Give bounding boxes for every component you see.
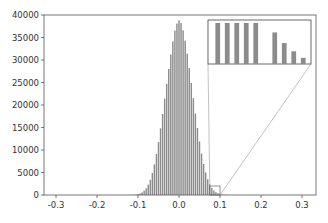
histogram-bar <box>174 31 175 195</box>
histogram-bar <box>182 30 183 195</box>
inset-bar <box>291 51 296 64</box>
histogram-bar <box>180 23 181 195</box>
x-tick-label: 0.3 <box>295 200 309 210</box>
histogram-bar <box>184 41 185 195</box>
inset-bar <box>301 58 306 64</box>
x-tick-label: -0.2 <box>89 200 106 210</box>
y-tick-label: 15000 <box>12 123 39 133</box>
histogram-bar <box>207 179 208 195</box>
inset-bar <box>225 23 230 64</box>
histogram-bar <box>205 173 206 196</box>
histogram-bar <box>166 84 167 195</box>
y-tick-label: 5000 <box>17 168 39 178</box>
x-tick-label: 0.2 <box>254 200 268 210</box>
x-tick-label: 0.0 <box>172 200 186 210</box>
y-tick-label: 20000 <box>12 100 39 110</box>
histogram-bar <box>215 192 216 195</box>
histogram-bar <box>168 69 169 195</box>
inset-bar <box>215 23 220 64</box>
histogram-bar <box>195 114 196 195</box>
histogram-bar <box>156 154 157 195</box>
histogram-bar <box>143 191 144 195</box>
histogram-bar <box>191 83 192 195</box>
histogram-bar <box>162 114 163 195</box>
x-tick-label: 0.1 <box>213 200 227 210</box>
histogram-bar <box>164 99 165 195</box>
y-tick-label: 10000 <box>12 145 39 155</box>
histogram-bar <box>148 185 149 195</box>
histogram-chart: 0500010000150002000025000300003500040000… <box>0 0 328 223</box>
y-tick-label: 40000 <box>12 10 39 20</box>
inset-bar <box>234 23 239 64</box>
x-tick-label: -0.1 <box>130 200 147 210</box>
inset-bar <box>253 23 258 64</box>
y-tick-label: 35000 <box>12 33 39 43</box>
inset-bar <box>282 43 287 64</box>
histogram-bar <box>178 20 179 195</box>
histogram-bar <box>203 164 204 195</box>
y-tick-label: 0 <box>34 190 39 200</box>
histogram-bar <box>189 68 190 195</box>
histogram-bar <box>211 188 212 195</box>
histogram-bar <box>186 54 187 195</box>
y-tick-label: 25000 <box>12 78 39 88</box>
histogram-bar <box>152 173 153 195</box>
histogram-bar <box>199 141 200 195</box>
zoom-inset <box>208 20 311 195</box>
histogram-bar <box>176 24 177 195</box>
histogram-bar <box>150 180 151 195</box>
histogram-bar <box>201 154 202 195</box>
y-tick-label: 30000 <box>12 55 39 65</box>
histogram-bar <box>197 128 198 195</box>
histogram-bar <box>145 188 146 195</box>
histogram-bar <box>158 142 159 195</box>
histogram-bar <box>193 98 194 195</box>
inset-bar <box>244 23 249 64</box>
histogram-bar <box>213 191 214 196</box>
histogram-bar <box>160 128 161 195</box>
histogram-bar <box>170 55 171 195</box>
histogram-bar <box>172 42 173 195</box>
histogram-bar <box>154 164 155 195</box>
x-tick-label: -0.3 <box>48 200 65 210</box>
inset-bar <box>272 32 277 64</box>
